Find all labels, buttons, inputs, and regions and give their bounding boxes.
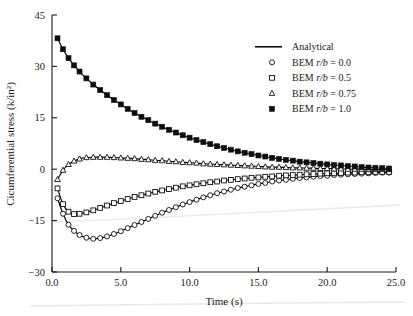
x-tick-label: 10.0 <box>180 277 198 288</box>
data-point-marker <box>235 186 240 191</box>
data-point-marker <box>61 211 66 216</box>
data-point-marker <box>297 159 302 164</box>
data-point-marker <box>77 232 82 237</box>
data-point-marker <box>387 166 392 171</box>
chart-figure: −30−150153045 0.05.010.015.020.025.0 Tim… <box>0 0 413 316</box>
legend-item-label: BEM r/b = 0.75 <box>292 88 356 99</box>
data-point-marker <box>72 63 77 68</box>
data-point-marker <box>98 88 103 93</box>
data-point-marker <box>125 197 130 202</box>
data-point-marker <box>173 185 178 190</box>
y-tick-label: −15 <box>29 215 45 226</box>
data-point-marker <box>132 111 137 116</box>
data-point-marker <box>132 223 137 228</box>
data-point-marker <box>187 200 192 205</box>
data-point-marker <box>55 186 60 191</box>
data-point-marker <box>325 171 330 176</box>
data-point-marker <box>345 164 350 169</box>
data-point-marker <box>132 195 137 200</box>
data-point-marker <box>270 60 275 65</box>
data-point-marker <box>139 114 144 119</box>
data-point-marker <box>61 47 66 52</box>
data-point-marker <box>222 189 227 194</box>
data-point-marker <box>91 82 96 87</box>
data-point-marker <box>118 229 123 234</box>
legend-item-label: Analytical <box>292 41 334 52</box>
data-point-marker <box>263 180 268 185</box>
data-point-marker <box>256 181 261 186</box>
data-point-marker <box>249 183 254 188</box>
data-point-marker <box>325 162 330 167</box>
data-point-marker <box>270 106 275 111</box>
legend-item-label: BEM r/b = 1.0 <box>292 103 351 114</box>
data-point-marker <box>180 202 185 207</box>
data-point-marker <box>215 179 220 184</box>
data-point-marker <box>201 195 206 200</box>
scan-artifact <box>52 205 400 222</box>
data-point-marker <box>222 178 227 183</box>
data-point-marker <box>194 138 199 143</box>
data-point-marker <box>77 211 82 216</box>
data-point-marker <box>61 202 66 207</box>
data-point-marker <box>66 209 71 214</box>
data-point-marker <box>173 130 178 135</box>
data-point-marker <box>380 166 385 171</box>
data-point-marker <box>242 176 247 181</box>
data-point-marker <box>118 102 123 107</box>
data-point-marker <box>118 199 123 204</box>
data-point-marker <box>290 173 295 178</box>
data-point-marker <box>153 121 158 126</box>
data-point-marker <box>72 212 77 217</box>
chart-legend: AnalyticalBEM r/b = 0.0BEM r/b = 0.5BEM … <box>255 41 356 114</box>
data-point-marker <box>167 187 172 192</box>
data-point-marker <box>160 188 165 193</box>
data-point-marker <box>373 165 378 170</box>
data-point-marker <box>215 144 220 149</box>
data-point-marker <box>235 177 240 182</box>
data-point-marker <box>146 191 151 196</box>
y-axis-ticks <box>52 15 57 272</box>
data-point-marker <box>55 36 60 41</box>
data-point-marker <box>84 210 89 215</box>
data-point-marker <box>153 189 158 194</box>
data-point-marker <box>111 231 116 236</box>
y-axis-tick-labels: −30−150153045 <box>29 10 45 278</box>
data-point-marker <box>84 76 89 81</box>
x-axis-ticks <box>52 267 396 272</box>
data-point-marker <box>228 187 233 192</box>
data-point-marker <box>256 175 261 180</box>
data-point-marker <box>111 97 116 102</box>
data-point-marker <box>277 156 282 161</box>
data-point-marker <box>105 234 110 239</box>
data-point-marker <box>66 56 71 61</box>
data-point-marker <box>242 184 247 189</box>
data-point-marker <box>304 172 309 177</box>
data-point-marker <box>332 163 337 168</box>
legend-item-label: BEM r/b = 0.0 <box>292 57 351 68</box>
data-point-marker <box>180 184 185 189</box>
data-point-marker <box>366 165 371 170</box>
x-axis-tick-labels: 0.05.010.015.020.025.0 <box>45 277 405 288</box>
x-tick-label: 20.0 <box>318 277 336 288</box>
data-point-marker <box>332 171 337 176</box>
data-point-marker <box>139 193 144 198</box>
data-point-marker <box>263 174 268 179</box>
x-tick-label: 15.0 <box>249 277 267 288</box>
data-point-marker <box>66 161 72 166</box>
data-point-marker <box>242 150 247 155</box>
data-point-marker <box>208 180 213 185</box>
data-point-marker <box>72 228 77 233</box>
data-point-marker <box>180 133 185 138</box>
x-tick-label: 0.0 <box>45 277 58 288</box>
data-point-marker <box>297 172 302 177</box>
data-point-marker <box>338 163 343 168</box>
data-point-marker <box>187 135 192 140</box>
data-point-marker <box>98 206 103 211</box>
data-point-marker <box>311 161 316 166</box>
data-point-marker <box>146 216 151 221</box>
data-point-marker <box>98 236 103 241</box>
data-point-marker <box>228 147 233 152</box>
data-point-marker <box>249 175 254 180</box>
data-point-marker <box>283 157 288 162</box>
data-point-marker <box>84 235 89 240</box>
